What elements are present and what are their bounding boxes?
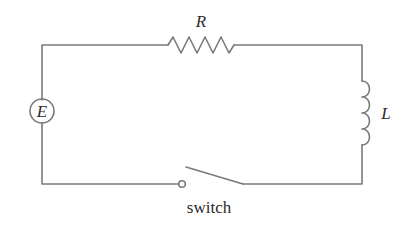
resistor-label: R	[195, 12, 207, 31]
wire-bottom-right	[243, 145, 362, 184]
wire-top-left	[42, 45, 168, 100]
wire-top-right	[234, 45, 362, 81]
wire-bottom-left	[42, 123, 179, 184]
rl-circuit-diagram: E R L switch	[0, 0, 420, 228]
inductor-label: L	[380, 104, 390, 123]
switch-blade	[186, 167, 243, 184]
inductor-symbol	[362, 81, 370, 145]
source-label: E	[36, 102, 48, 121]
switch-contact	[179, 181, 186, 188]
switch-label: switch	[187, 198, 232, 217]
resistor-symbol	[168, 37, 234, 53]
